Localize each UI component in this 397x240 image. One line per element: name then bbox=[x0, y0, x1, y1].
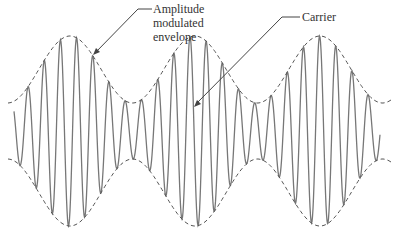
envelope-label-line2: modulated bbox=[153, 16, 204, 30]
carrier-label: Carrier bbox=[302, 10, 336, 24]
envelope-label-line3: envelope bbox=[153, 30, 204, 44]
envelope-label: Amplitude modulated envelope bbox=[153, 2, 204, 44]
carrier-wave bbox=[14, 36, 380, 226]
carrier-arrow bbox=[194, 17, 300, 107]
envelope-arrow bbox=[93, 9, 152, 55]
envelope-label-line1: Amplitude bbox=[153, 2, 204, 16]
